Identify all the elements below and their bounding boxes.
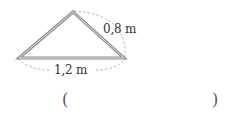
base-dimension-arc-right [96,59,125,70]
side-length-label: 0,8 m [103,23,136,35]
base-length-label: 1,2 m [52,64,89,76]
base-dimension-arc-left [18,59,50,70]
triangle-diagram [0,0,230,85]
triangle-figure: 0,8 m 1,2 m [0,0,230,85]
answer-input[interactable] [74,90,212,112]
answer-row: ( ) [0,90,230,110]
open-parenthesis: ( [62,90,68,110]
close-parenthesis: ) [212,90,218,110]
